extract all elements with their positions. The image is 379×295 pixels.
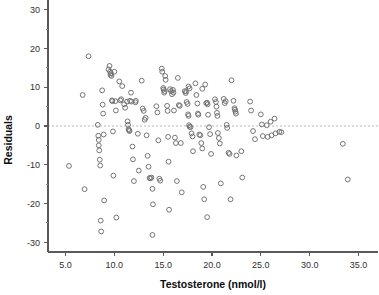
x-tick-label: 5.0 [59, 260, 72, 270]
x-axis-title: Testosterone (nmol/l) [160, 278, 266, 290]
data-point-marker [135, 131, 140, 136]
data-point-marker [150, 186, 155, 191]
data-point-marker [209, 152, 214, 157]
data-point-marker [178, 141, 183, 146]
x-tick-label: 10.0 [106, 260, 124, 270]
data-point-marker [239, 149, 244, 154]
data-point-marker [131, 157, 136, 162]
data-point-marker [174, 141, 179, 146]
data-point-marker [165, 108, 170, 113]
data-point-marker [98, 218, 103, 223]
data-point-marker [194, 93, 199, 98]
data-point-marker [119, 97, 124, 102]
data-point-marker [345, 177, 350, 182]
data-point-marker [253, 137, 258, 142]
data-point-marker [82, 187, 87, 192]
data-point-marker [100, 102, 105, 107]
data-point-marker [251, 129, 256, 134]
data-point-marker [189, 131, 194, 136]
data-point-marker [165, 103, 170, 108]
y-axis-title: Residuals [2, 115, 14, 165]
data-point-marker [225, 126, 230, 131]
data-point-marker [101, 111, 106, 116]
data-point-marker [96, 143, 101, 148]
data-point-marker [202, 197, 207, 202]
data-point-marker [101, 132, 106, 137]
data-point-marker [102, 198, 107, 203]
data-point-marker [167, 207, 172, 212]
data-point-marker [193, 81, 198, 86]
data-points [67, 54, 351, 238]
data-point-marker [258, 112, 263, 117]
data-point-marker [98, 163, 103, 168]
data-point-marker [249, 108, 254, 113]
data-point-marker [203, 82, 208, 87]
data-point-marker [248, 99, 253, 104]
data-point-marker [95, 122, 100, 127]
data-point-marker [218, 181, 223, 186]
data-point-marker [200, 146, 205, 151]
data-point-marker [150, 233, 155, 238]
data-point-marker [151, 202, 156, 207]
data-point-marker [173, 135, 178, 140]
data-point-marker [99, 229, 104, 234]
data-point-marker [175, 76, 180, 81]
data-point-marker [113, 108, 118, 113]
data-point-marker [228, 197, 233, 202]
data-point-marker [100, 88, 105, 93]
data-point-marker [190, 134, 195, 139]
data-point-marker [144, 133, 149, 138]
data-point-marker [215, 114, 220, 119]
y-tick-label: 20 [30, 44, 40, 54]
data-point-marker [132, 179, 137, 184]
data-point-marker [130, 144, 135, 149]
data-point-marker [146, 164, 151, 169]
data-point-marker [272, 116, 277, 121]
data-point-marker [260, 134, 265, 139]
data-point-marker [240, 175, 245, 180]
data-point-marker [174, 179, 179, 184]
y-tick-label: -20 [27, 199, 40, 209]
axis-tick-labels: -30-20-1001020305.010.015.020.025.030.03… [27, 5, 367, 270]
data-point-marker [67, 164, 72, 169]
data-point-marker [191, 149, 196, 154]
data-point-marker [139, 78, 144, 83]
data-point-marker [217, 141, 222, 146]
data-point-marker [179, 190, 184, 195]
data-point-marker [155, 110, 160, 115]
residuals-scatter-figure: -30-20-1001020305.010.015.020.025.030.03… [0, 0, 379, 295]
data-point-marker [97, 148, 102, 153]
data-point-marker [231, 98, 236, 103]
data-point-marker [216, 136, 221, 141]
data-point-marker [80, 93, 85, 98]
data-point-marker [195, 101, 200, 106]
data-point-marker [340, 141, 345, 146]
data-point-marker [207, 125, 212, 130]
data-point-marker [160, 69, 165, 74]
data-point-marker [229, 78, 234, 83]
x-tick-label: 20.0 [203, 260, 221, 270]
data-point-marker [166, 159, 171, 164]
x-tick-label: 15.0 [154, 260, 172, 270]
data-point-marker [227, 152, 232, 157]
data-point-marker [154, 104, 159, 109]
data-point-marker [172, 108, 177, 113]
data-point-marker [111, 129, 116, 134]
data-point-marker [214, 104, 219, 109]
data-point-marker [208, 132, 213, 137]
data-point-marker [215, 131, 220, 136]
scatter-plot-canvas: -30-20-1001020305.010.015.020.025.030.03… [0, 0, 379, 295]
data-point-marker [206, 112, 211, 117]
data-point-marker [86, 54, 91, 59]
data-point-marker [114, 215, 119, 220]
data-point-marker [234, 153, 239, 158]
data-point-marker [166, 134, 171, 139]
y-tick-label: 30 [30, 5, 40, 15]
y-tick-label: 10 [30, 82, 40, 92]
data-point-marker [120, 84, 125, 89]
data-point-marker [111, 173, 116, 178]
data-point-marker [199, 141, 204, 146]
data-point-marker [129, 90, 134, 95]
data-point-marker [156, 138, 161, 143]
data-point-marker [117, 79, 122, 84]
